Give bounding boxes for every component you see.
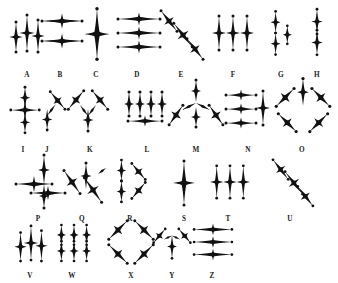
specimen-label-w: W — [65, 272, 79, 280]
specimen-glyph-h — [277, 0, 338, 73]
specimen-glyph-z — [173, 202, 253, 282]
specimen-h[interactable] — [277, 0, 338, 73]
specimen-u[interactable] — [252, 141, 332, 221]
specimen-plate: ABCDEFGHIJKLMNOPQRSTUVWXYZ — [0, 0, 338, 283]
specimen-o[interactable] — [263, 69, 338, 149]
specimen-z[interactable] — [173, 202, 253, 282]
specimen-glyph-o — [263, 69, 338, 149]
specimen-label-u: U — [283, 215, 297, 223]
specimen-glyph-u — [252, 141, 332, 221]
specimen-label-z: Z — [205, 272, 219, 280]
